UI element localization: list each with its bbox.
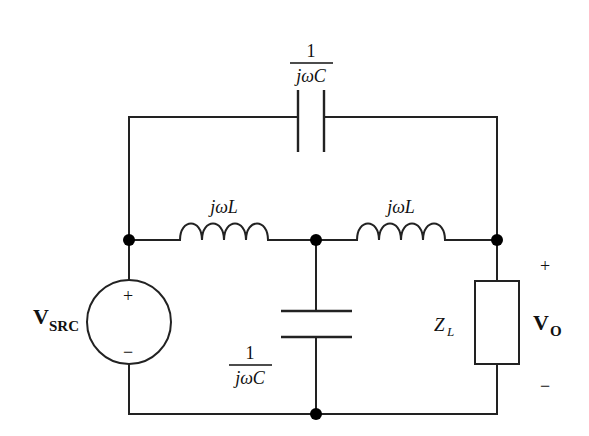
cap-mid-numerator: 1	[246, 343, 255, 363]
shunt-capacitor-branch	[281, 240, 352, 414]
cap-mid-denominator: jωC	[233, 368, 266, 388]
source-branch	[87, 240, 171, 414]
inductor-left-icon	[180, 224, 268, 241]
circuit-diagram: 1 jωC jωL jωL V SRC + − 1 jωC Z L + V O …	[0, 0, 589, 436]
source-label-main: V	[33, 304, 49, 329]
bottom-node	[310, 408, 322, 420]
cap-top-numerator: 1	[307, 41, 316, 61]
wire-top-right	[324, 117, 497, 240]
top-branch	[129, 90, 497, 240]
source-minus-sign: −	[123, 342, 133, 362]
source-plus-sign: +	[123, 286, 133, 306]
left-node	[123, 234, 135, 246]
inductor-left-label: jωL	[208, 197, 238, 217]
output-label-main: V	[533, 310, 549, 335]
source-label-sub: SRC	[49, 318, 79, 334]
cap-top-denominator: jωC	[294, 66, 327, 86]
output-label-sub: O	[550, 323, 562, 339]
load-impedance-icon	[475, 281, 519, 364]
output-minus-sign: −	[540, 376, 550, 396]
output-plus-sign: +	[540, 256, 550, 276]
load-branch	[475, 240, 519, 414]
inductor-right-label: jωL	[385, 197, 415, 217]
wire-top-left	[129, 117, 298, 240]
right-node	[491, 234, 503, 246]
load-label-sub: L	[446, 324, 454, 339]
middle-node	[310, 234, 322, 246]
load-label-main: Z	[434, 314, 445, 335]
inductor-right-icon	[357, 224, 445, 241]
